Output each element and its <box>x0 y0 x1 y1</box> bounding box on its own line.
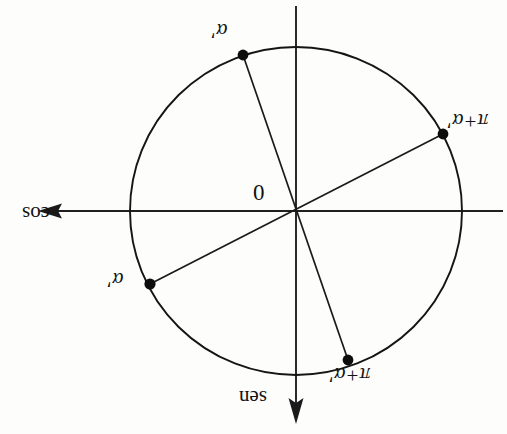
point-alpha-top <box>238 50 249 61</box>
point-label-pi-plus-alpha-right: π+α' <box>448 110 488 131</box>
point-label-alpha-left: α' <box>108 269 124 290</box>
cos-axis-label: cos <box>22 203 50 224</box>
point-label-alpha-top: α' <box>212 20 228 41</box>
trigonometric-circle-figure: α' π+α' α' π+α' 0 cos sen <box>0 0 507 434</box>
origin-label: 0 <box>253 181 265 204</box>
point-pi-plus-alpha-right <box>438 129 449 140</box>
point-label-pi-plus-alpha-bottom: π+α' <box>330 364 370 385</box>
axes-group <box>38 6 503 424</box>
unit-circle-diagram <box>0 0 507 434</box>
sen-axis-label: sen <box>239 387 267 408</box>
point-alpha-left <box>144 278 155 289</box>
